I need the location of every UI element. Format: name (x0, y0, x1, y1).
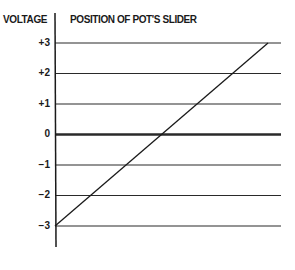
gridlines (55, 43, 281, 226)
y-axis-line (55, 13, 56, 247)
plot-area (0, 0, 295, 270)
